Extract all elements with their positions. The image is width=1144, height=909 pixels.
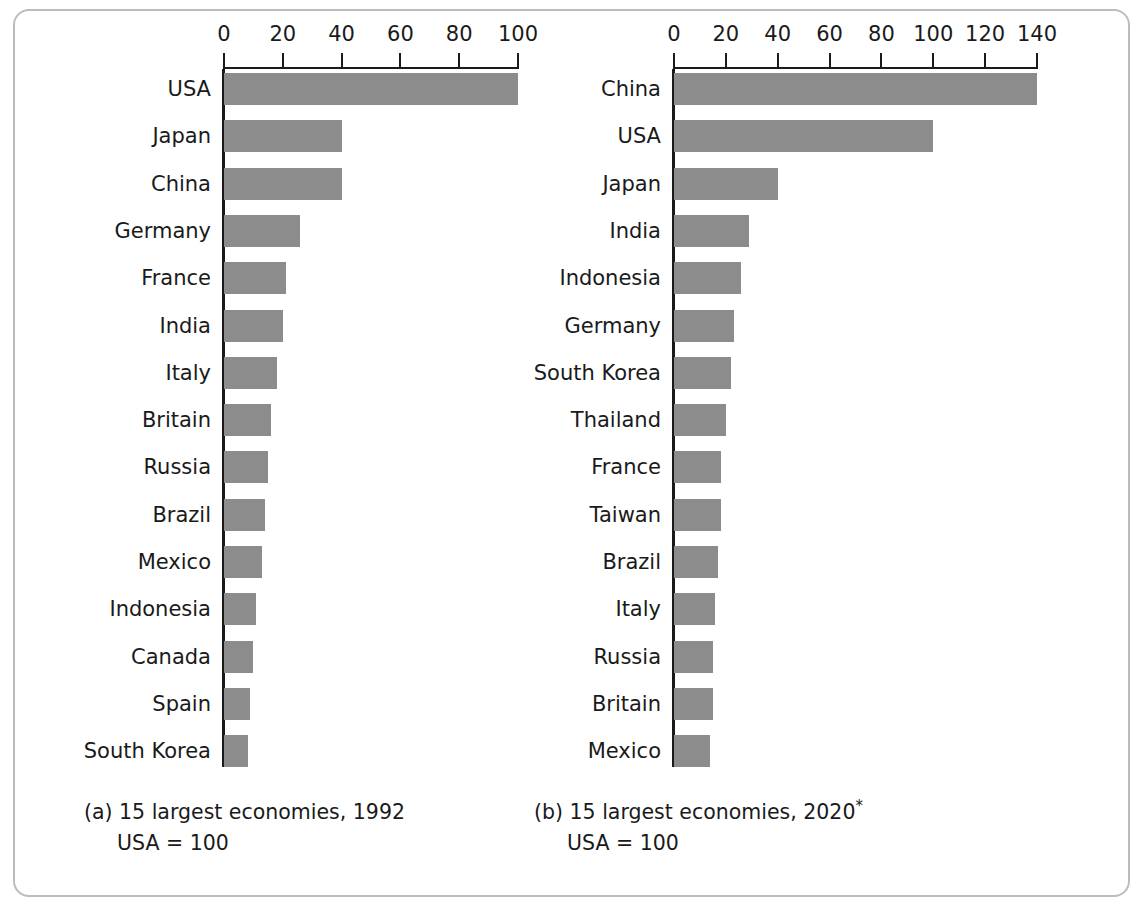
bar-row: USA bbox=[674, 120, 1037, 152]
bar-row: Italy bbox=[674, 593, 1037, 625]
bar bbox=[224, 546, 262, 578]
axis-tick bbox=[725, 53, 727, 69]
category-label: India bbox=[609, 220, 661, 241]
axis-tick bbox=[829, 53, 831, 69]
category-label: Indonesia bbox=[559, 268, 661, 289]
bar bbox=[224, 262, 286, 294]
category-label: South Korea bbox=[84, 741, 211, 762]
panel-container: 020406080100 USAJapanChinaGermanyFranceI… bbox=[15, 11, 1128, 895]
bar bbox=[674, 451, 721, 483]
bar bbox=[224, 641, 253, 673]
axis-tick bbox=[1036, 53, 1038, 69]
axis-tick-label: 120 bbox=[965, 24, 1005, 45]
bar bbox=[224, 451, 268, 483]
axis-tick bbox=[458, 53, 460, 69]
category-label: France bbox=[141, 268, 211, 289]
category-label: Brazil bbox=[602, 552, 661, 573]
bar bbox=[674, 73, 1037, 105]
bar-row: South Korea bbox=[224, 735, 518, 767]
category-label: Japan bbox=[152, 126, 211, 147]
axis-tick-label: 60 bbox=[816, 24, 843, 45]
bar bbox=[224, 688, 250, 720]
category-label: South Korea bbox=[534, 362, 661, 383]
axis-tick-label: 20 bbox=[712, 24, 739, 45]
category-label: Britain bbox=[142, 410, 211, 431]
axis-tick bbox=[984, 53, 986, 69]
bar bbox=[674, 404, 726, 436]
category-label: Japan bbox=[602, 173, 661, 194]
axis-tick bbox=[880, 53, 882, 69]
category-label: France bbox=[591, 457, 661, 478]
axis-tick-label: 140 bbox=[1017, 24, 1057, 45]
category-label: Russia bbox=[143, 457, 211, 478]
axis-tick-label: 0 bbox=[217, 24, 230, 45]
chart-panel-a: 020406080100 USAJapanChinaGermanyFranceI… bbox=[49, 11, 549, 895]
caption-b: (b) 15 largest economies, 2020*USA = 100 bbox=[534, 797, 863, 859]
category-label: Thailand bbox=[571, 410, 661, 431]
bar bbox=[674, 593, 715, 625]
bar-row: Italy bbox=[224, 357, 518, 389]
bar-row: Germany bbox=[674, 310, 1037, 342]
axis-tick bbox=[777, 53, 779, 69]
bar-row: Mexico bbox=[224, 546, 518, 578]
bar-row: Russia bbox=[674, 641, 1037, 673]
axis-tick bbox=[223, 53, 225, 69]
x-axis-b: 020406080100120140 bbox=[674, 47, 1037, 69]
bar-row: China bbox=[674, 73, 1037, 105]
x-axis-a: 020406080100 bbox=[224, 47, 518, 69]
category-label: China bbox=[601, 79, 661, 100]
bar-row: Brazil bbox=[224, 499, 518, 531]
bar-row: Japan bbox=[674, 168, 1037, 200]
axis-tick-label: 80 bbox=[446, 24, 473, 45]
bar-row: Spain bbox=[224, 688, 518, 720]
category-label: Italy bbox=[615, 599, 661, 620]
bar bbox=[224, 404, 271, 436]
category-label: Brazil bbox=[152, 504, 211, 525]
bar-row: France bbox=[674, 451, 1037, 483]
bar bbox=[674, 688, 713, 720]
category-label: USA bbox=[618, 126, 661, 147]
bar-row: Taiwan bbox=[674, 499, 1037, 531]
category-label: Germany bbox=[114, 220, 211, 241]
bar bbox=[674, 641, 713, 673]
bar-row: USA bbox=[224, 73, 518, 105]
category-label: Italy bbox=[165, 362, 211, 383]
bar-row: China bbox=[224, 168, 518, 200]
bar-row: India bbox=[224, 310, 518, 342]
category-label: USA bbox=[168, 79, 211, 100]
caption-title: (b) 15 largest economies, 2020* bbox=[534, 797, 863, 828]
figure-frame: 020406080100 USAJapanChinaGermanyFranceI… bbox=[13, 9, 1130, 897]
caption-title: (a) 15 largest economies, 1992 bbox=[84, 797, 405, 828]
axis-tick bbox=[282, 53, 284, 69]
category-label: India bbox=[159, 315, 211, 336]
bar-row: Canada bbox=[224, 641, 518, 673]
bar-row: Britain bbox=[224, 404, 518, 436]
axis-tick-label: 60 bbox=[387, 24, 414, 45]
caption-note: USA = 100 bbox=[117, 828, 405, 859]
axis-tick bbox=[932, 53, 934, 69]
category-label: Taiwan bbox=[590, 504, 661, 525]
category-label: Indonesia bbox=[109, 599, 211, 620]
bar-row: Mexico bbox=[674, 735, 1037, 767]
bar bbox=[674, 168, 778, 200]
bar bbox=[674, 357, 731, 389]
bar bbox=[224, 357, 277, 389]
axis-tick-label: 20 bbox=[269, 24, 296, 45]
caption-a: (a) 15 largest economies, 1992USA = 100 bbox=[84, 797, 405, 859]
bar-row: Germany bbox=[224, 215, 518, 247]
axis-tick-label: 0 bbox=[667, 24, 680, 45]
bar-row: South Korea bbox=[674, 357, 1037, 389]
bar-row: Japan bbox=[224, 120, 518, 152]
bar-row: Indonesia bbox=[224, 593, 518, 625]
plot-area-b: ChinaUSAJapanIndiaIndonesiaGermanySouth … bbox=[674, 69, 1037, 767]
axis-tick-label: 100 bbox=[913, 24, 953, 45]
bar bbox=[674, 735, 710, 767]
bar bbox=[224, 215, 300, 247]
bar-row: India bbox=[674, 215, 1037, 247]
bar bbox=[224, 499, 265, 531]
bar-row: Russia bbox=[224, 451, 518, 483]
axis-tick bbox=[399, 53, 401, 69]
category-label: Russia bbox=[593, 646, 661, 667]
bar-row: Britain bbox=[674, 688, 1037, 720]
bar bbox=[224, 735, 248, 767]
